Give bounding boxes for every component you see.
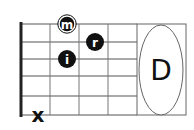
finger-dot-m: m	[58, 15, 76, 33]
chord-name: D	[150, 54, 172, 87]
finger-dot-i: i	[58, 50, 76, 68]
finger-dot-r: r	[86, 33, 104, 51]
finger-label: i	[65, 53, 69, 67]
finger-label: r	[92, 36, 98, 50]
muted-string-marker: x	[32, 103, 45, 127]
finger-label: m	[61, 18, 74, 32]
chord-diagram: D m r i x	[0, 0, 194, 130]
